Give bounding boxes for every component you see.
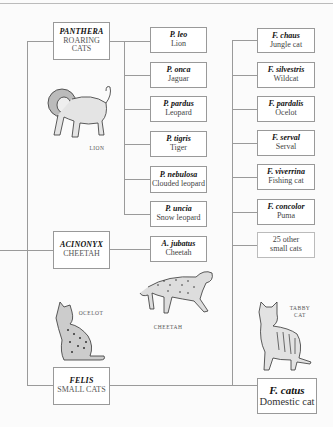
top-rule <box>0 3 333 4</box>
connector-panthera-left <box>27 41 53 42</box>
species-common-name: Domestic cat <box>259 396 314 408</box>
connector-other <box>232 245 257 246</box>
connector-silvestris <box>232 75 257 76</box>
connector-uncia <box>124 214 150 215</box>
connector-panthera-right <box>110 41 150 42</box>
species-common-name: Cheetah <box>165 249 191 258</box>
connector-chaus <box>232 40 257 41</box>
genus-common: SMALL CATS <box>57 386 105 395</box>
species-box-p-leo: P. leo Lion <box>150 27 207 53</box>
species-common-name: Puma <box>277 212 295 221</box>
species-box-f-catus: F. catus Domestic cat <box>257 378 317 414</box>
connector-middle-vertical <box>124 41 125 215</box>
species-common-name: Wildcat <box>274 75 299 84</box>
species-box-f-viverrina: F. viverrina Fishing cat <box>257 164 315 190</box>
species-box-a-jubatus: A. jubatus Cheetah <box>150 236 207 262</box>
connector-left-vertical <box>27 41 28 386</box>
connector-onca <box>124 75 150 76</box>
species-common-name: Leopard <box>165 109 192 118</box>
species-box-f-concolor: F. concolor Puma <box>257 199 315 225</box>
connector-tigris <box>124 144 150 145</box>
cheetah-illustration-icon <box>138 265 218 320</box>
species-box-f-pardalis: F. pardalis Ocelot <box>257 96 315 122</box>
species-common-name: Tiger <box>170 144 187 153</box>
species-common-name: Jungle cat <box>270 41 302 50</box>
species-box-p-tigris: P. tigris Tiger <box>150 131 207 157</box>
species-common-name: 25 other small cats <box>266 236 306 254</box>
species-scientific-name: F. catus <box>269 384 304 396</box>
species-common-name: Snow leopard <box>156 214 200 223</box>
species-common-name: Serval <box>276 143 296 152</box>
genus-common: ROARING CATS <box>62 37 102 55</box>
genus-panthera-box: PANTHERA ROARING CATS <box>53 22 110 60</box>
species-box-p-uncia: P. uncia Snow leopard <box>150 201 207 227</box>
species-box-other-small-cats: 25 other small cats <box>257 232 315 258</box>
connector-acinonyx-left <box>0 250 53 251</box>
species-box-p-pardus: P. pardus Leopard <box>150 96 207 122</box>
species-common-name: Jaguar <box>168 75 189 84</box>
species-common-name: Fishing cat <box>268 177 303 186</box>
lion-caption: Lion <box>82 145 112 152</box>
genus-acinonyx-box: ACINONYX CHEETAH <box>53 231 110 269</box>
species-box-f-chaus: F. chaus Jungle cat <box>257 28 315 53</box>
connector-nebulosa <box>124 179 150 180</box>
species-common-name: Ocelot <box>275 109 296 118</box>
genus-common: CHEETAH <box>63 250 100 259</box>
species-common-name: Lion <box>171 40 186 49</box>
ocelot-caption: Ocelot <box>76 310 106 317</box>
species-box-f-silvestris: F. silvestris Wildcat <box>257 62 315 88</box>
cheetah-caption: Cheetah <box>148 324 188 331</box>
connector-serval <box>232 143 257 144</box>
lion-illustration-icon <box>44 85 116 143</box>
connector-pardalis <box>232 109 257 110</box>
tabby-cat-caption: Tabby cat <box>288 305 312 318</box>
species-box-p-nebulosa: P. nebulosa Clouded leopard <box>150 166 207 193</box>
connector-acinonyx-right <box>110 249 150 250</box>
species-box-f-serval: F. serval Serval <box>257 130 315 156</box>
species-box-p-onca: P. onca Jaguar <box>150 62 207 88</box>
connector-pardus <box>124 109 150 110</box>
genus-felis-box: FELIS SMALL CATS <box>53 367 110 405</box>
species-common-name: Clouded leopard <box>152 180 205 189</box>
connector-concolor <box>232 212 257 213</box>
connector-right-vertical <box>232 40 233 386</box>
connector-viverrina <box>232 177 257 178</box>
